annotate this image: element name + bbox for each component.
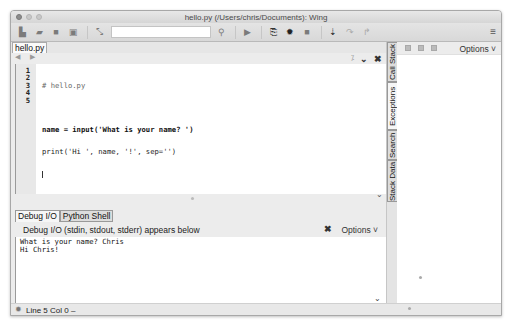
- toolbar-separator: [87, 26, 88, 39]
- cursor-position: Line 5 Col 0 –: [26, 306, 75, 315]
- debug-bug-icon[interactable]: ✹: [283, 25, 297, 39]
- code-line: name = input('What is your name? '): [42, 126, 193, 133]
- exceptions-panel: Options ˅: [397, 42, 501, 303]
- step-out-icon[interactable]: ↱: [360, 25, 374, 39]
- editor-area: hello.py ◀ ▶ ⁒ ⌄ ✖ 1 2 3 4 5 # hello.py …: [11, 42, 386, 303]
- chevron-down-icon[interactable]: ⌄: [360, 54, 368, 64]
- code-line: print('Hi ', name, '!', sep=''): [42, 148, 193, 155]
- tools-tab-bar: Debug I/O Python Shell: [15, 210, 113, 222]
- main-toolbar: ▙ ▰ ■ ▣ ⤡ ⚲ ▶ ⎘ ✹ ■ ⇣ ↷ ↱ ≡: [11, 23, 501, 42]
- resize-handle[interactable]: [408, 307, 411, 310]
- status-bar: ✹ Line 5 Col 0 –: [11, 303, 501, 315]
- tab-python-shell[interactable]: Python Shell: [60, 210, 114, 222]
- vertical-tool-tabs: Call Stack Exceptions Search Stack Data: [386, 42, 397, 303]
- step-into-file-icon[interactable]: ⎘: [266, 25, 280, 39]
- bug-icon: ✹: [15, 305, 22, 314]
- search-icon[interactable]: ⚲: [214, 25, 228, 39]
- stop-icon[interactable]: ■: [300, 25, 314, 39]
- zoom-window-button[interactable]: [36, 14, 42, 20]
- debug-options-dropdown[interactable]: Options ˅: [341, 225, 378, 235]
- file-tab-hello-py[interactable]: hello.py: [12, 42, 47, 53]
- editor-controls: ⁒ ⌄ ✖: [351, 54, 382, 64]
- run-icon[interactable]: ▶: [240, 25, 254, 39]
- panel-view-icons: [405, 45, 437, 51]
- line-numbers: 1 2 3 4 5: [18, 67, 30, 104]
- wing-ide-window: hello.py (/Users/chris/Documents): Wing …: [10, 10, 502, 316]
- tab-debug-io[interactable]: Debug I/O: [15, 210, 60, 222]
- view-icon[interactable]: [418, 45, 424, 51]
- file-tab-bar: hello.py: [11, 42, 386, 53]
- exceptions-toolbar: Options ˅: [397, 42, 501, 55]
- toolbar-search-input[interactable]: [111, 26, 211, 38]
- back-forward-arrows-icon[interactable]: ◀ ▶: [15, 53, 39, 61]
- save-icon[interactable]: ■: [49, 25, 63, 39]
- debug-io-description: Debug I/O (stdin, stdout, stderr) appear…: [23, 225, 200, 235]
- window-title: hello.py (/Users/chris/Documents): Wing: [185, 13, 328, 22]
- splitter-handle[interactable]: [191, 197, 194, 200]
- options-icon[interactable]: ⁒: [351, 54, 354, 64]
- debug-io-output[interactable]: What is your name? Chris Hi Chris!: [15, 237, 386, 312]
- window-controls: [16, 14, 42, 20]
- text-cursor: [42, 171, 43, 178]
- code-editor[interactable]: 1 2 3 4 5 # hello.py name = input('What …: [15, 64, 386, 194]
- code-line: [42, 171, 193, 179]
- title-bar: hello.py (/Users/chris/Documents): Wing: [11, 11, 501, 23]
- open-folder-icon[interactable]: ▰: [32, 25, 46, 39]
- code-line: [42, 104, 193, 111]
- code-line: # hello.py: [42, 82, 193, 89]
- close-window-button[interactable]: [16, 14, 22, 20]
- debug-io-header: Debug I/O (stdin, stdout, stderr) appear…: [15, 222, 386, 237]
- close-editor-icon[interactable]: ✖: [374, 54, 382, 64]
- exceptions-options-dropdown[interactable]: Options ˅: [459, 44, 496, 54]
- toolbar-separator: [235, 26, 236, 39]
- view-icon[interactable]: [431, 45, 437, 51]
- toolbar-separator: [321, 26, 322, 39]
- close-icon[interactable]: ✖: [324, 224, 332, 234]
- editor-nav-bar: ◀ ▶ ⁒ ⌄ ✖: [11, 53, 386, 64]
- indent-icon[interactable]: ⤡: [92, 25, 106, 39]
- hamburger-menu-icon[interactable]: ≡: [490, 26, 496, 37]
- step-over-icon[interactable]: ↷: [343, 25, 357, 39]
- chevron-down-icon[interactable]: ⌄: [376, 190, 383, 199]
- save-all-icon[interactable]: ▣: [66, 25, 80, 39]
- new-file-icon[interactable]: ▙: [15, 25, 29, 39]
- splitter-handle[interactable]: [419, 276, 422, 279]
- debug-output-text: What is your name? Chris Hi Chris!: [20, 238, 124, 253]
- step-icon[interactable]: ⇣: [326, 25, 340, 39]
- view-icon[interactable]: [405, 45, 411, 51]
- toolbar-separator: [261, 26, 262, 39]
- code-text[interactable]: # hello.py name = input('What is your na…: [42, 67, 193, 193]
- minimize-window-button[interactable]: [26, 14, 32, 20]
- chevron-down-icon[interactable]: ⌄: [374, 294, 381, 303]
